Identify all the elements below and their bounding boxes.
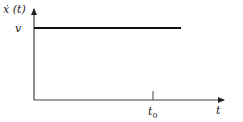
x-axis-label: t (216, 104, 221, 117)
t0-label: t0 (148, 105, 158, 120)
level-label-v: v (15, 22, 22, 35)
velocity-diagram: ẋ (t) v t t0 (0, 0, 243, 122)
y-axis-label: ẋ (t) (3, 3, 26, 16)
